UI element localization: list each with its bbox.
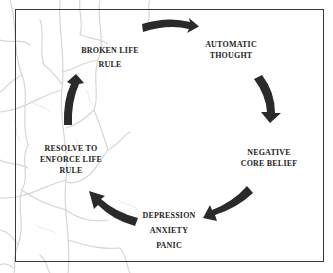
node-line: RULE (80, 61, 140, 69)
node-broken-life-rule: BROKEN LIFE RULE (80, 47, 140, 69)
node-line: CORE BELIEF (236, 160, 302, 168)
node-line: RESOLVE TO (38, 145, 104, 153)
arrow-to-negative-core-belief-icon (254, 75, 281, 123)
node-resolve-to-enforce-life-rule: RESOLVE TO ENFORCE LIFE RULE (38, 145, 104, 175)
node-line: BROKEN LIFE (80, 47, 140, 55)
node-line: ENFORCE LIFE (38, 156, 104, 164)
arrow-to-resolve-icon (89, 191, 138, 226)
node-depression-anxiety-panic: DEPRESSION ANXIETY PANIC (138, 212, 200, 250)
node-line: ANXIETY (138, 227, 200, 235)
node-line: PANIC (138, 242, 200, 250)
node-line: AUTOMATIC (200, 41, 262, 49)
node-line: DEPRESSION (138, 212, 200, 220)
arrow-to-broken-life-rule-icon (64, 74, 84, 125)
node-line: NEGATIVE (236, 149, 302, 157)
node-line: THOUGHT (200, 52, 262, 60)
node-negative-core-belief: NEGATIVE CORE BELIEF (236, 149, 302, 168)
arrow-to-automatic-thought-icon (142, 18, 199, 33)
node-line: RULE (38, 167, 104, 175)
arrow-to-depression-icon (203, 186, 253, 221)
node-automatic-thought: AUTOMATIC THOUGHT (200, 41, 262, 60)
